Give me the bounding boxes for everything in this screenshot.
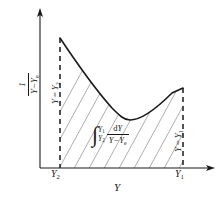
integrand-numerator: dY <box>107 124 129 135</box>
y-axis-denominator: Y−Ye <box>29 73 40 96</box>
left-dashed-line-label: Y = Y2 <box>51 82 61 104</box>
integrand-denominator: Y−Ye <box>107 135 129 146</box>
integral-area-figure: 1 Y−Ye Y = Y2 Y = Y1 Y2 Y1 Y ∫ Y1 Y2 dY … <box>0 0 223 205</box>
x-tick-label-y1: Y1 <box>175 169 184 181</box>
data-curve <box>60 38 183 120</box>
integral-annotation: ∫ Y1 Y2 dY Y−Ye <box>92 124 129 146</box>
integral-lower-limit: Y2 <box>98 135 105 144</box>
y-axis-numerator: 1 <box>18 73 29 96</box>
integral-limits: Y1 Y2 <box>98 126 105 145</box>
right-dashed-line-label: Y = Y1 <box>174 130 184 152</box>
integrand-fraction: dY Y−Ye <box>107 124 129 146</box>
x-axis <box>40 165 215 171</box>
y-axis-fraction: 1 Y−Ye <box>18 73 40 96</box>
x-axis-label: Y <box>114 182 120 193</box>
plot-canvas <box>0 0 223 205</box>
y-axis-label: 1 Y−Ye <box>18 73 40 96</box>
x-tick-label-y2: Y2 <box>51 169 60 181</box>
